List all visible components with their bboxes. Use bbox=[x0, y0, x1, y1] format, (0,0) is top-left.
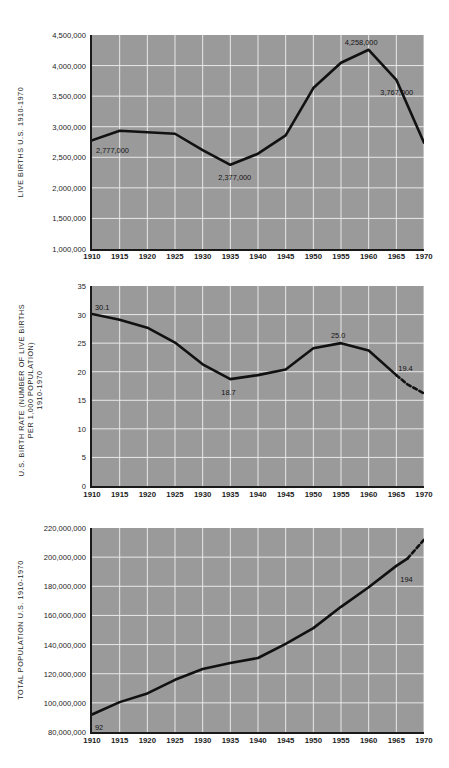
x-tick-label: 1930 bbox=[194, 490, 211, 499]
chart-total-population: TOTAL POPULATION U.S. 1910-1970 80,000,0… bbox=[0, 520, 449, 768]
x-tick-label: 1930 bbox=[194, 736, 211, 745]
x-tick-label: 1925 bbox=[166, 490, 183, 499]
data-point-label: 3,767,000 bbox=[380, 88, 413, 97]
y-tick-label: 5 bbox=[82, 453, 86, 462]
x-tick-label: 1920 bbox=[139, 736, 156, 745]
x-tick-label: 1940 bbox=[249, 490, 266, 499]
x-tick-label: 1960 bbox=[360, 736, 377, 745]
series-line bbox=[92, 314, 396, 379]
chart2-y-axis-title: U.S. BIRTH RATE (NUMBER OF LIVE BIRTHS P… bbox=[17, 290, 44, 490]
x-tick-label: 1965 bbox=[388, 252, 405, 261]
y-tick-label: 120,000,000 bbox=[44, 669, 86, 678]
x-tick-label: 1910 bbox=[83, 736, 100, 745]
chart1-plot-area bbox=[92, 35, 424, 249]
x-tick-label: 1930 bbox=[194, 252, 211, 261]
data-point-label: 25.0 bbox=[331, 331, 345, 340]
y-tick-label: 180,000,000 bbox=[44, 582, 86, 591]
x-tick-label: 1955 bbox=[332, 252, 349, 261]
data-point-label: 194 bbox=[400, 575, 412, 584]
y-tick-label: 1,500,000 bbox=[52, 214, 86, 223]
data-point-label: 19.4 bbox=[398, 364, 412, 373]
x-tick-label: 1960 bbox=[360, 490, 377, 499]
x-tick-label: 1940 bbox=[249, 736, 266, 745]
y-tick-label: 4,000,000 bbox=[52, 61, 86, 70]
chart1-y-axis-title: LIVE BIRTHS U.S. 1910-1970 bbox=[16, 52, 25, 232]
chart1-x-axis-line bbox=[90, 249, 424, 251]
y-tick-label: 20 bbox=[78, 367, 86, 376]
x-tick-label: 1970 bbox=[415, 490, 432, 499]
x-tick-label: 1910 bbox=[83, 252, 100, 261]
chart-live-births: LIVE BIRTHS U.S. 1910-1970 1,000,0001,50… bbox=[0, 0, 449, 278]
data-point-label: 2,777,000 bbox=[96, 146, 129, 155]
y-tick-label: 1,000,000 bbox=[52, 245, 86, 254]
x-tick-label: 1925 bbox=[166, 252, 183, 261]
y-tick-label: 100,000,000 bbox=[44, 698, 86, 707]
chart3-y-axis-title: TOTAL POPULATION U.S. 1910-1970 bbox=[16, 535, 25, 725]
y-tick-label: 15 bbox=[78, 396, 86, 405]
x-tick-label: 1970 bbox=[415, 252, 432, 261]
data-point-label: 92 bbox=[95, 723, 103, 732]
chart2-plot-area bbox=[92, 286, 424, 486]
y-tick-label: 25 bbox=[78, 339, 86, 348]
y-tick-label: 3,000,000 bbox=[52, 122, 86, 131]
y-tick-label: 2,000,000 bbox=[52, 183, 86, 192]
x-tick-label: 1965 bbox=[388, 736, 405, 745]
x-tick-label: 1920 bbox=[139, 490, 156, 499]
x-tick-label: 1945 bbox=[277, 490, 294, 499]
data-point-label: 30.1 bbox=[95, 303, 109, 312]
y-tick-label: 80,000,000 bbox=[48, 728, 86, 737]
x-tick-label: 1945 bbox=[277, 252, 294, 261]
series-line-dashed bbox=[396, 375, 424, 393]
y-tick-label: 200,000,000 bbox=[44, 553, 86, 562]
y-tick-label: 220,000,000 bbox=[44, 524, 86, 533]
x-tick-label: 1955 bbox=[332, 736, 349, 745]
chart1-y-axis-line bbox=[90, 35, 92, 249]
x-tick-label: 1950 bbox=[305, 490, 322, 499]
chart2-line-series bbox=[92, 286, 424, 486]
x-tick-label: 1950 bbox=[305, 252, 322, 261]
chart3-line-series bbox=[92, 528, 424, 732]
data-point-label: 18.7 bbox=[221, 388, 235, 397]
y-tick-label: 140,000,000 bbox=[44, 640, 86, 649]
x-tick-label: 1945 bbox=[277, 736, 294, 745]
y-tick-label: 4,500,000 bbox=[52, 31, 86, 40]
x-tick-label: 1950 bbox=[305, 736, 322, 745]
x-tick-label: 1965 bbox=[388, 490, 405, 499]
x-tick-label: 1910 bbox=[83, 490, 100, 499]
chart2-y-axis-line bbox=[90, 286, 92, 486]
x-tick-label: 1955 bbox=[332, 490, 349, 499]
y-tick-label: 3,500,000 bbox=[52, 92, 86, 101]
y-tick-label: 2,500,000 bbox=[52, 153, 86, 162]
figure-page: LIVE BIRTHS U.S. 1910-1970 1,000,0001,50… bbox=[0, 0, 449, 768]
y-tick-label: 160,000,000 bbox=[44, 611, 86, 620]
data-point-label: 2,377,000 bbox=[218, 173, 251, 182]
x-tick-label: 1925 bbox=[166, 736, 183, 745]
y-tick-label: 30 bbox=[78, 310, 86, 319]
x-tick-label: 1915 bbox=[111, 490, 128, 499]
chart2-x-axis-line bbox=[90, 486, 424, 488]
x-tick-label: 1935 bbox=[222, 736, 239, 745]
y-tick-label: 10 bbox=[78, 424, 86, 433]
chart-birth-rate: U.S. BIRTH RATE (NUMBER OF LIVE BIRTHS P… bbox=[0, 278, 449, 520]
x-tick-label: 1935 bbox=[222, 252, 239, 261]
chart3-x-axis-line bbox=[90, 732, 424, 734]
x-tick-label: 1920 bbox=[139, 252, 156, 261]
x-tick-label: 1940 bbox=[249, 252, 266, 261]
series-line-dashed bbox=[407, 540, 424, 559]
y-tick-label: 35 bbox=[78, 282, 86, 291]
chart1-line-series bbox=[92, 35, 424, 249]
x-tick-label: 1970 bbox=[415, 736, 432, 745]
series-line bbox=[92, 559, 407, 715]
x-tick-label: 1960 bbox=[360, 252, 377, 261]
data-point-label: 4,258,000 bbox=[345, 38, 378, 47]
chart3-plot-area bbox=[92, 528, 424, 732]
x-tick-label: 1935 bbox=[222, 490, 239, 499]
chart3-y-axis-line bbox=[90, 528, 92, 732]
x-tick-label: 1915 bbox=[111, 252, 128, 261]
x-tick-label: 1915 bbox=[111, 736, 128, 745]
